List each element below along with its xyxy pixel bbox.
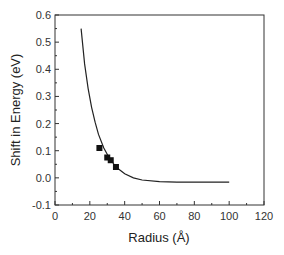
x-tick-label: 100 (220, 210, 238, 222)
x-tick-label: 0 (52, 210, 58, 222)
x-tick-label: 120 (255, 210, 273, 222)
y-tick-label: 0.5 (36, 36, 51, 48)
x-tick-label: 80 (188, 210, 200, 222)
y-tick-label: 0.3 (36, 90, 51, 102)
y-tick-label: 0.6 (36, 9, 51, 21)
model-curve (81, 29, 229, 183)
data-point (108, 157, 114, 163)
data-point (113, 164, 119, 170)
y-tick-label: 0.2 (36, 118, 51, 130)
data-markers (96, 145, 119, 170)
x-tick-label: 20 (84, 210, 96, 222)
y-tick-label: -0.1 (32, 199, 51, 211)
x-tick-label: 60 (153, 210, 165, 222)
x-axis-title: Radius (Å) (128, 230, 189, 245)
y-tick-label: 0.1 (36, 145, 51, 157)
plot-frame (55, 15, 264, 205)
y-tick-label: 0.0 (36, 172, 51, 184)
y-axis-title: Shift in Energy (eV) (8, 54, 23, 167)
y-tick-label: 0.4 (36, 63, 51, 75)
chart: -0.10.00.10.20.30.40.50.6 02040608010012… (0, 0, 284, 255)
data-point (96, 145, 102, 151)
x-axis: 020406080100120 (52, 201, 273, 222)
x-tick-label: 40 (119, 210, 131, 222)
